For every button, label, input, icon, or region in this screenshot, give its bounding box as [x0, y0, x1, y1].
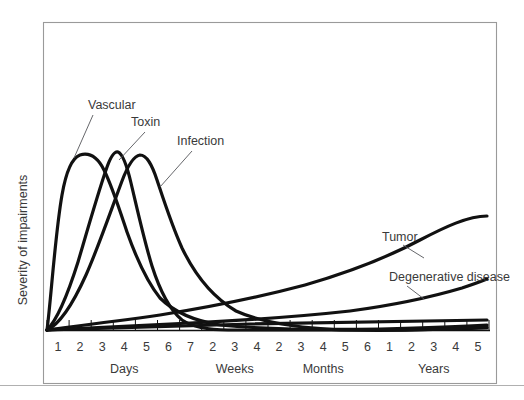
curve-label-vascular: Vascular	[88, 98, 136, 112]
x-tick-label: 4	[320, 340, 327, 354]
y-axis-label: Severity of impairments	[16, 175, 30, 306]
curve-label-tumor: Tumor	[382, 230, 418, 244]
curve-label-infection: Infection	[177, 134, 224, 148]
x-tick-label: 1	[386, 340, 393, 354]
group-label-weeks: Weeks	[216, 362, 254, 376]
x-tick-label: 3	[99, 340, 106, 354]
x-tick-label: 3	[430, 340, 437, 354]
group-label-days: Days	[110, 362, 138, 376]
x-tick-label: 4	[121, 340, 128, 354]
x-tick-label: 4	[253, 340, 260, 354]
x-tick-label: 3	[298, 340, 305, 354]
x-tick-label: 6	[165, 340, 172, 354]
x-tick-label: 6	[364, 340, 371, 354]
group-label-years: Years	[418, 362, 450, 376]
x-tick-label: 7	[187, 340, 194, 354]
x-tick-label: 2	[408, 340, 415, 354]
x-tick-label: 2	[209, 340, 216, 354]
x-tick-label: 5	[474, 340, 481, 354]
x-tick-label: 1	[55, 340, 62, 354]
group-label-months: Months	[303, 362, 344, 376]
x-tick-label: 3	[231, 340, 238, 354]
x-tick-label: 5	[143, 340, 150, 354]
x-tick-label: 5	[342, 340, 349, 354]
x-tick-label: 2	[276, 340, 283, 354]
x-tick-label: 2	[77, 340, 84, 354]
curve-label-toxin: Toxin	[131, 115, 160, 129]
curve-label-degenerative-disease: Degenerative disease	[389, 270, 510, 284]
figure-container: Severity of impairments 1 2 3 4 5 6 7 2	[0, 0, 524, 400]
severity-of-impairments-chart: Severity of impairments 1 2 3 4 5 6 7 2	[0, 0, 524, 400]
x-tick-label: 4	[452, 340, 459, 354]
